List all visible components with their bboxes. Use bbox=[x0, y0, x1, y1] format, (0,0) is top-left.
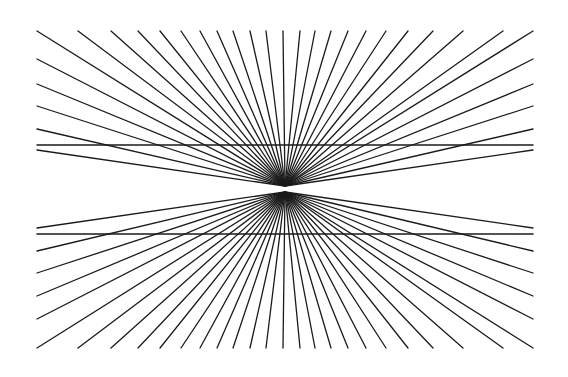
radiating-line bbox=[160, 31, 285, 186]
radiating-line bbox=[285, 192, 533, 273]
radiating-line bbox=[283, 192, 285, 348]
radiating-line bbox=[285, 192, 408, 348]
radiating-line bbox=[37, 192, 285, 296]
radiating-line bbox=[285, 31, 503, 186]
radiating-line bbox=[285, 31, 408, 186]
hering-illusion-figure bbox=[0, 0, 568, 377]
radiating-line bbox=[37, 84, 285, 186]
radiating-line bbox=[285, 192, 348, 348]
radiating-line bbox=[37, 31, 285, 186]
radiating-line bbox=[285, 31, 533, 186]
radiating-line bbox=[285, 192, 533, 348]
radiating-line bbox=[37, 192, 285, 348]
radiating-line bbox=[285, 150, 533, 186]
radiating-line bbox=[37, 192, 285, 319]
radiating-line bbox=[217, 192, 285, 348]
radiating-line bbox=[37, 192, 285, 251]
radiating-line bbox=[285, 106, 533, 186]
lower-radiating-lines bbox=[37, 192, 533, 348]
radiating-line bbox=[285, 84, 533, 186]
radiating-line bbox=[285, 192, 433, 348]
radiating-line bbox=[78, 192, 285, 348]
illusion-canvas bbox=[0, 0, 568, 377]
radiating-line bbox=[285, 31, 348, 186]
radiating-line bbox=[283, 31, 285, 186]
radiating-line bbox=[37, 192, 285, 228]
radiating-line bbox=[250, 31, 285, 186]
radiating-line bbox=[250, 192, 285, 348]
radiating-line bbox=[285, 192, 533, 228]
radiating-line bbox=[37, 59, 285, 186]
radiating-line bbox=[160, 192, 285, 348]
radiating-line bbox=[285, 192, 533, 251]
upper-radiating-lines bbox=[37, 31, 533, 186]
radiating-line bbox=[37, 150, 285, 186]
radiating-line bbox=[285, 129, 533, 186]
